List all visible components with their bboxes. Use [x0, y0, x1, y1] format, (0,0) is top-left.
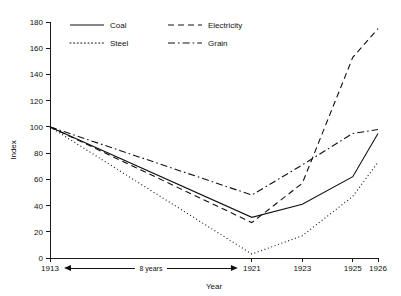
y-tick-label: 60 [34, 175, 43, 184]
y-tick-label: 0 [39, 254, 44, 263]
y-tick-label: 140 [30, 70, 44, 79]
y-tick-label: 180 [30, 18, 44, 27]
x-tick-label: 1926 [369, 264, 387, 273]
series-group [50, 29, 378, 255]
x-axis-title: Year [206, 282, 223, 291]
y-tick-label: 160 [30, 44, 44, 53]
series-line-steel [50, 127, 378, 254]
chart-canvas: 020406080100120140160180 191319211923192… [0, 0, 401, 296]
legend-label-electricity: Electricity [208, 21, 242, 30]
legend-label-steel: Steel [110, 39, 128, 48]
chart-legend: CoalElectricitySteelGrain [70, 21, 242, 48]
legend-label-coal: Coal [110, 21, 127, 30]
y-tick-label: 20 [34, 228, 43, 237]
x-tick-label: 1913 [41, 264, 59, 273]
x-tick-label: 1921 [243, 264, 261, 273]
y-tick-label: 100 [30, 123, 44, 132]
span-label: 8 years [139, 265, 162, 273]
series-line-electricity [50, 29, 378, 223]
axes-group [50, 22, 378, 258]
y-tick-label: 120 [30, 97, 44, 106]
y-axis-title: Index [9, 140, 18, 160]
x-tick-label: 1925 [344, 264, 362, 273]
line-chart: 020406080100120140160180 191319211923192… [0, 0, 401, 296]
x-axis-ticks: 19131921192319251926 [41, 258, 387, 273]
span-left-arrow-head [64, 265, 71, 271]
legend-label-grain: Grain [208, 39, 228, 48]
x-tick-label: 1923 [293, 264, 311, 273]
y-axis-ticks: 020406080100120140160180 [30, 18, 50, 263]
y-tick-label: 40 [34, 202, 43, 211]
span-right-arrow-head [231, 265, 238, 271]
series-line-grain [50, 127, 378, 195]
series-line-coal [50, 127, 378, 217]
eight-years-annotation: 8 years [64, 262, 238, 274]
y-tick-label: 80 [34, 149, 43, 158]
